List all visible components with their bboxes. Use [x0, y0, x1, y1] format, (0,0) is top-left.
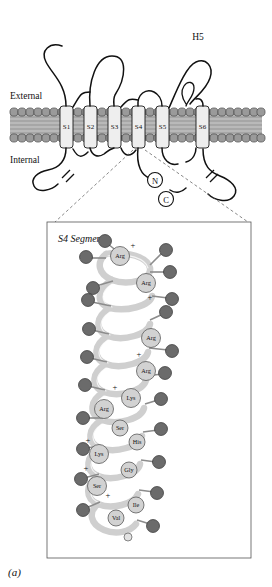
charge-sign-2: +: [148, 292, 153, 302]
residue-label-arg-1: Arg: [115, 252, 125, 259]
residue-label-ser: Ser: [116, 424, 124, 431]
s4-inset-panel: S4 Segment: [47, 222, 251, 558]
segment-label-s2: S2: [87, 123, 95, 131]
charge-sign-6: +: [84, 463, 89, 473]
h5-label: H5: [192, 32, 204, 42]
extracellular-loops: [44, 45, 211, 108]
figure-panel: S1 S2 S3 S4 S5 S6 H5: [0, 0, 272, 587]
n-terminus-label: N: [152, 176, 158, 186]
charge-sign-3: +: [137, 349, 142, 359]
segment-label-s5: S5: [159, 123, 167, 131]
segment-label-s6: S6: [199, 123, 207, 131]
segment-label-s1: S1: [63, 123, 71, 131]
residue-label-arg-2: Arg: [141, 279, 151, 286]
charge-sign-5: +: [86, 435, 91, 445]
residue-label-his: His: [133, 438, 142, 445]
internal-label: Internal: [10, 155, 40, 165]
segment-label-s3: S3: [111, 123, 119, 131]
charge-sign-4: +: [113, 382, 118, 392]
residue-label-arg-6: Lys: [95, 450, 105, 457]
residue-label-lys-2: Ser: [93, 482, 101, 489]
inset-title: S4 Segment: [58, 233, 105, 244]
charge-sign-7: +: [106, 490, 111, 500]
channel-topology-diagram: S1 S2 S3 S4 S5 S6 H5: [0, 0, 272, 587]
residue-label-gly: Gly: [124, 466, 134, 473]
loop-break-marks: [62, 170, 218, 182]
residue-label-arg-4: Arg: [141, 367, 151, 374]
residue-label-arg-5: Arg: [99, 405, 109, 412]
charge-sign-1: +: [131, 240, 136, 250]
external-label: External: [10, 91, 43, 101]
n-terminus-marker: N: [148, 173, 163, 188]
c-terminus-marker: C: [159, 192, 174, 207]
residue-label-val: Val: [112, 514, 121, 521]
residue-label-arg-3: Arg: [146, 334, 156, 341]
c-terminus-label: C: [163, 195, 169, 205]
segment-label-s4: S4: [135, 123, 143, 131]
figure-caption: (a): [8, 566, 21, 578]
residue-label-ile: Ile: [133, 501, 140, 508]
helix-terminus-stub: [124, 533, 132, 541]
residue-label-lys-1: Lys: [127, 394, 137, 401]
